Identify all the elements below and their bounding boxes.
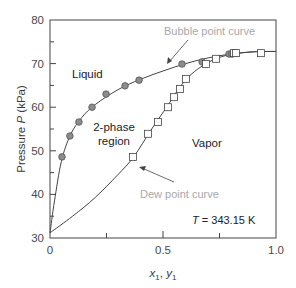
dew-point-annotation: Dew point curve — [140, 188, 219, 200]
x-axis-title: x1, y1 — [149, 267, 177, 282]
x-tick-0-5: 0.5 — [155, 244, 171, 256]
vle-pxy-chart: 80 70 60 50 40 30 0 0.5 1.0 Pressure P (… — [0, 0, 296, 288]
bubble-point-marker — [136, 77, 143, 84]
bubble-point-marker — [122, 83, 129, 90]
x-tick-1-0: 1.0 — [268, 244, 284, 256]
dew-point-marker — [176, 85, 183, 92]
dew-arrow-line — [142, 168, 174, 182]
bubble-point-marker — [59, 154, 66, 161]
x-tick-0: 0 — [47, 244, 53, 256]
dew-point-marker — [232, 50, 239, 57]
dew-arrow-head — [139, 166, 146, 171]
bubble-point-marker — [179, 61, 186, 68]
y-tick-80: 80 — [31, 14, 44, 26]
y-tick-40: 40 — [31, 188, 44, 200]
dew-point-marker — [183, 75, 190, 82]
bubble-point-marker — [76, 119, 83, 126]
temperature-label: T = 343.15 K — [192, 214, 256, 226]
y-tick-70: 70 — [31, 58, 44, 70]
dew-point-marker — [213, 55, 220, 62]
y-tick-30: 30 — [31, 232, 44, 244]
two-phase-label-line2: region — [98, 135, 130, 147]
bubble-point-marker — [103, 91, 110, 98]
dew-point-marker — [155, 119, 162, 126]
bubble-arrow-head — [167, 57, 172, 64]
y-ticks — [50, 42, 56, 216]
dew-point-marker — [202, 61, 209, 68]
chart-svg: 80 70 60 50 40 30 0 0.5 1.0 Pressure P (… — [0, 0, 296, 288]
vapor-label: Vapor — [192, 137, 222, 149]
liquid-label: Liquid — [72, 68, 103, 80]
y-axis-title: Pressure P (kPa) — [15, 85, 27, 173]
dew-point-marker — [258, 50, 265, 57]
bubble-point-annotation: Bubble point curve — [164, 25, 255, 37]
y-tick-50: 50 — [31, 145, 44, 157]
dew-point-marker — [164, 104, 171, 111]
x-ticks — [107, 231, 220, 238]
bubble-arrow-line — [169, 40, 188, 62]
dew-point-marker — [129, 153, 136, 160]
bubble-point-marker — [89, 104, 96, 111]
y-tick-60: 60 — [31, 101, 44, 113]
dew-point-marker — [145, 130, 152, 137]
dew-point-marker — [171, 94, 178, 101]
two-phase-label-line1: 2-phase — [93, 121, 135, 133]
bubble-point-marker — [67, 133, 74, 140]
